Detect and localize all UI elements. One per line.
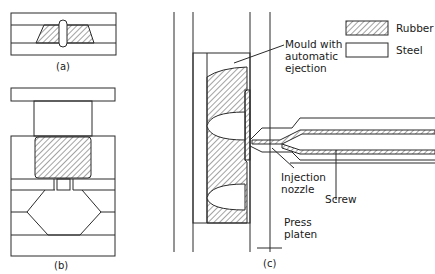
legend-swatch-steel: [346, 43, 388, 57]
legend-swatch-rubber: [346, 21, 388, 35]
caption-c: (c): [263, 258, 276, 269]
legend-label-steel: Steel: [396, 44, 423, 56]
legend-label-rubber: Rubber: [396, 22, 434, 34]
moulding-diagram: [0, 0, 435, 274]
figure-a-mould: [11, 13, 116, 55]
label-injection-nozzle: Injection nozzle: [281, 171, 326, 195]
label-screw: Screw: [325, 193, 357, 205]
label-mould-with-automatic-ejection: Mould with automatic ejection: [285, 38, 342, 74]
label-press-platen: Press platen: [284, 216, 317, 240]
caption-b: (b): [54, 260, 68, 271]
caption-a: (a): [56, 61, 70, 72]
figure-b-mould: [11, 88, 115, 256]
